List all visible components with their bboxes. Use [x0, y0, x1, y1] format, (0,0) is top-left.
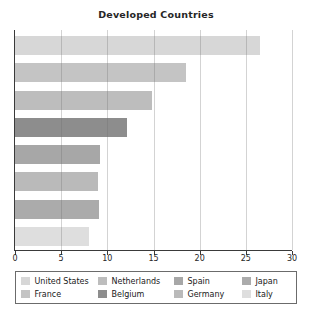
- x-tick-label: 15: [148, 254, 158, 263]
- x-tick-label: 20: [195, 254, 205, 263]
- x-tick-label: 0: [12, 254, 17, 263]
- legend-label: Italy: [256, 290, 273, 299]
- bar: [15, 36, 260, 55]
- legend-item: Italy: [242, 288, 292, 301]
- chart-title: Developed Countries: [0, 9, 312, 20]
- bar-chart-figure: Developed Countries 051015202530 United …: [0, 0, 312, 312]
- bar: [15, 118, 127, 137]
- legend-label: France: [35, 290, 62, 299]
- gridline: [200, 30, 201, 250]
- legend-label: Spain: [188, 277, 210, 286]
- legend-swatch: [98, 277, 107, 285]
- bar: [15, 63, 186, 82]
- legend-swatch: [174, 277, 183, 285]
- legend-swatch: [242, 277, 251, 285]
- legend-item: Spain: [174, 275, 242, 288]
- legend-swatch: [174, 290, 183, 298]
- x-tick-label: 5: [59, 254, 64, 263]
- legend-item: France: [21, 288, 98, 301]
- legend-swatch: [21, 290, 30, 298]
- gridline: [246, 30, 247, 250]
- legend-label: Germany: [188, 290, 225, 299]
- legend: United StatesNetherlandsSpainJapanFrance…: [15, 271, 297, 304]
- x-tick-label: 30: [287, 254, 297, 263]
- x-tick-label: 10: [102, 254, 112, 263]
- gridline: [61, 30, 62, 250]
- legend-item: Japan: [242, 275, 292, 288]
- legend-item: Germany: [174, 288, 242, 301]
- plot-area: 051015202530: [14, 30, 292, 251]
- bar: [15, 172, 98, 191]
- legend-item: Netherlands: [98, 275, 174, 288]
- bar: [15, 200, 99, 219]
- legend-label: United States: [35, 277, 89, 286]
- bar: [15, 145, 100, 164]
- bar: [15, 91, 152, 110]
- legend-label: Belgium: [112, 290, 145, 299]
- legend-swatch: [242, 290, 251, 298]
- legend-swatch: [98, 290, 107, 298]
- legend-swatch: [21, 277, 30, 285]
- gridline: [107, 30, 108, 250]
- legend-label: Japan: [256, 277, 278, 286]
- bar: [15, 227, 89, 246]
- gridline: [154, 30, 155, 250]
- legend-item: Belgium: [98, 288, 174, 301]
- gridline: [292, 30, 293, 250]
- legend-item: United States: [21, 275, 98, 288]
- legend-label: Netherlands: [112, 277, 161, 286]
- x-tick-label: 25: [241, 254, 251, 263]
